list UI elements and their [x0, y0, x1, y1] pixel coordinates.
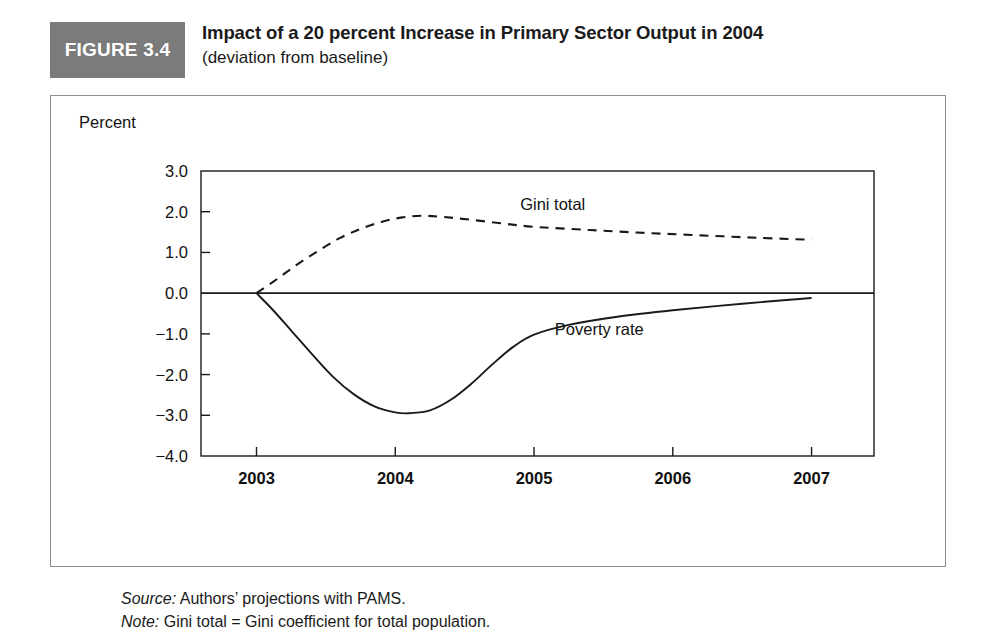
y-tick-label: −3.0 [155, 406, 188, 424]
x-tick-label: 2007 [793, 469, 830, 487]
note-line: Note: Gini total = Gini coefficient for … [121, 611, 921, 633]
figure-header: FIGURE 3.4 Impact of a 20 percent Increa… [50, 22, 900, 78]
y-tick-label: −2.0 [155, 366, 188, 384]
chart-axes [201, 171, 874, 456]
source-line: Source: Authors’ projections with PAMS. [121, 588, 921, 611]
chart-area: 3.02.01.00.0−1.0−2.0−3.0−4.0 20032004200… [51, 96, 947, 568]
series-line-gini-total [257, 216, 812, 293]
figure-footnotes: Source: Authors’ projections with PAMS. … [121, 588, 921, 633]
y-axis-tick-labels: 3.02.01.00.0−1.0−2.0−3.0−4.0 [155, 162, 188, 465]
figure-title-block: Impact of a 20 percent Increase in Prima… [202, 22, 902, 68]
x-tick-label: 2005 [516, 469, 553, 487]
source-text: Authors’ projections with PAMS. [176, 590, 405, 607]
line-chart: 3.02.01.00.0−1.0−2.0−3.0−4.0 20032004200… [51, 96, 947, 496]
figure-subtitle: (deviation from baseline) [202, 47, 902, 68]
y-tick-label: 0.0 [165, 284, 188, 302]
y-axis-unit-label: Percent [79, 113, 136, 131]
note-label: Note: [121, 613, 159, 630]
series-line-poverty-rate [257, 293, 812, 413]
y-tick-label: 2.0 [165, 203, 188, 221]
series-label-poverty-rate: Poverty rate [555, 320, 644, 338]
x-axis-tick-labels: 20032004200520062007 [238, 469, 830, 487]
source-label: Source: [121, 590, 176, 607]
chart-series-group [257, 216, 812, 414]
note-text: Gini total = Gini coefficient for total … [159, 613, 490, 630]
x-tick-label: 2003 [238, 469, 275, 487]
y-tick-label: −1.0 [155, 325, 188, 343]
figure-frame: 3.02.01.00.0−1.0−2.0−3.0−4.0 20032004200… [50, 95, 946, 567]
series-label-gini-total: Gini total [520, 195, 585, 213]
x-tick-label: 2004 [377, 469, 415, 487]
x-tick-label: 2006 [654, 469, 691, 487]
figure-title: Impact of a 20 percent Increase in Prima… [202, 22, 902, 45]
figure-number-badge: FIGURE 3.4 [50, 22, 185, 78]
y-tick-label: 3.0 [165, 162, 188, 180]
y-tick-label: −4.0 [155, 447, 188, 465]
y-tick-label: 1.0 [165, 243, 188, 261]
